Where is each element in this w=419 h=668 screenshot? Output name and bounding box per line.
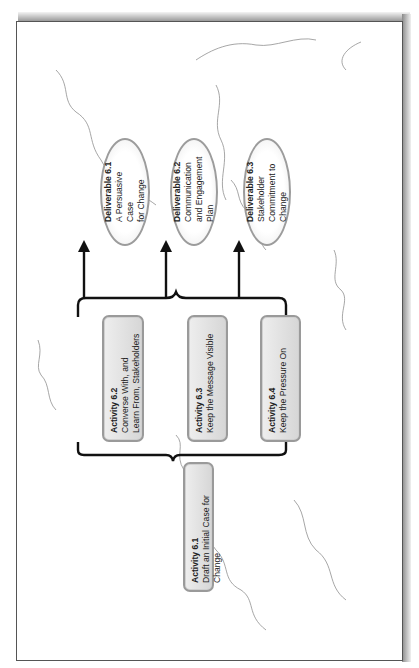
deliverable-title: Deliverable 6.3 bbox=[245, 152, 256, 222]
deliverable-title: Deliverable 6.1 bbox=[103, 152, 114, 222]
deliverable-6-1[interactable]: Deliverable 6.1 A Persuasive Case for Ch… bbox=[100, 138, 150, 246]
deliverable-text-line: Commitment to bbox=[267, 152, 278, 222]
deliverable-title: Deliverable 6.2 bbox=[172, 152, 183, 222]
activity-6-3[interactable]: Activity 6.3 Keep the Message Visible bbox=[187, 315, 228, 442]
deliverable-text-line: for Change bbox=[136, 152, 147, 222]
deliverable-text-line: Plan bbox=[205, 152, 216, 222]
activity-title: Activity 6.3 bbox=[194, 324, 205, 433]
activity-text-line: Converse With, and bbox=[120, 324, 131, 433]
deliverable-text-line: Stakeholder bbox=[256, 152, 267, 222]
activity-text: Draft an Initial Case for Change bbox=[201, 471, 223, 583]
deliverable-text-line: and Engagement bbox=[194, 152, 205, 222]
rotated-diagram: Activity 6.1 Draft an Initial Case for C… bbox=[16, 20, 402, 660]
activity-text: Keep the Message Visible bbox=[205, 324, 216, 433]
activity-6-2[interactable]: Activity 6.2 Converse With, and Learn Fr… bbox=[102, 315, 144, 442]
page-shadow-right bbox=[402, 14, 411, 662]
activity-6-1[interactable]: Activity 6.1 Draft an Initial Case for C… bbox=[183, 462, 214, 592]
activity-title: Activity 6.2 bbox=[109, 324, 120, 433]
arrow-icon bbox=[78, 240, 90, 252]
activity-6-4[interactable]: Activity 6.4 Keep the Pressure On bbox=[260, 315, 301, 442]
deliverable-6-2[interactable]: Deliverable 6.2 Communication and Engage… bbox=[170, 138, 218, 246]
deliverable-6-3[interactable]: Deliverable 6.3 Stakeholder Commitment t… bbox=[243, 138, 291, 246]
activity-title: Activity 6.1 bbox=[190, 471, 201, 583]
brace-connector-2 bbox=[78, 248, 286, 317]
activity-text-line: Learn From, Stakeholders bbox=[131, 324, 142, 433]
brace-connector-1 bbox=[78, 442, 286, 461]
deliverable-text-line: Communication bbox=[183, 152, 194, 222]
deliverable-text-line: A Persuasive Case bbox=[114, 152, 136, 222]
arrow-icon bbox=[160, 240, 172, 252]
activity-title: Activity 6.4 bbox=[267, 324, 278, 433]
arrowheads bbox=[78, 240, 245, 252]
arrow-icon bbox=[233, 240, 245, 252]
activity-text: Keep the Pressure On bbox=[278, 324, 289, 433]
deliverable-text-line: Change bbox=[278, 152, 289, 222]
